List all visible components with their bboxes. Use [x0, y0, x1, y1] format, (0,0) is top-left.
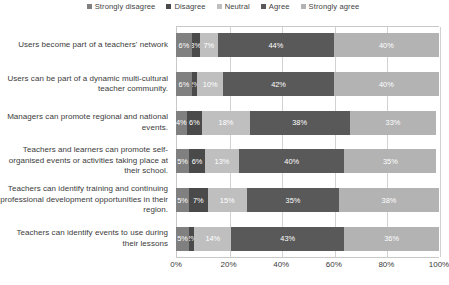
bar-segment-label: 36% — [384, 234, 399, 243]
bar-segment-label: 10% — [203, 80, 218, 89]
bar-segment-label: 4% — [176, 118, 187, 127]
legend-item-label: Strongly agree — [309, 2, 360, 11]
bar-segment-label: 43% — [280, 234, 295, 243]
bar-segment-label: 14% — [205, 234, 220, 243]
legend-item-4[interactable]: Strongly agree — [301, 2, 360, 11]
bar-segment: 7% — [189, 188, 207, 212]
bar-segment-label: 18% — [219, 118, 234, 127]
legend-swatch-icon — [301, 4, 306, 9]
category-label: Teachers can identify events to use duri… — [0, 228, 168, 249]
bar-segment-label: 38% — [292, 118, 307, 127]
bar-segment-label: 33% — [386, 118, 401, 127]
bar-segment-label: 38% — [382, 196, 397, 205]
bar-segment: 6% — [189, 149, 205, 173]
bar-row: 4%6%18%38%33% — [176, 111, 439, 135]
bar-segment: 40% — [239, 149, 344, 173]
bar-segment-label: 5% — [177, 234, 188, 243]
bar-segment: 6% — [176, 33, 192, 57]
bar-segment: 38% — [250, 111, 350, 135]
bar-segment: 36% — [344, 227, 439, 251]
bar-segment: 3% — [192, 33, 200, 57]
bar-segment-label: 35% — [286, 196, 301, 205]
category-label: Teachers can identify training and conti… — [0, 184, 168, 216]
x-axis-tick-3: 60% — [326, 260, 342, 269]
bar-segment-label: 40% — [284, 157, 299, 166]
category-label: Users become part of a teachers' network — [0, 40, 168, 51]
x-axis-tick-4: 80% — [378, 260, 394, 269]
legend-item-0[interactable]: Strongly disagree — [87, 2, 156, 11]
bar-segment: 6% — [187, 111, 203, 135]
legend-item-label: Strongly disagree — [95, 2, 156, 11]
bar-segment-label: 42% — [271, 80, 286, 89]
bar-segment: 42% — [223, 72, 333, 96]
bar-segment-label: 6% — [189, 118, 200, 127]
x-axis-tick-5: 100% — [429, 260, 449, 269]
bar-row: 5%6%13%40%35% — [176, 149, 439, 173]
bar-segment: 18% — [202, 111, 249, 135]
bar-segment: 6% — [176, 72, 192, 96]
bar-segment-label: 3% — [192, 41, 200, 50]
bar-segment: 44% — [218, 33, 334, 57]
bar-segment-label: 7% — [193, 196, 204, 205]
bar-segment-label: 6% — [192, 157, 203, 166]
legend-item-2[interactable]: Neutral — [217, 2, 250, 11]
legend-item-1[interactable]: Disagree — [166, 2, 205, 11]
bar-segment-label: 40% — [379, 80, 394, 89]
bar-segment: 4% — [176, 111, 187, 135]
chart-legend: Strongly disagreeDisagreeNeutralAgreeStr… — [0, 2, 446, 11]
x-axis-tick-2: 40% — [273, 260, 289, 269]
bar-segment: 5% — [176, 227, 189, 251]
bar-segment-label: 40% — [379, 41, 394, 50]
bar-segment: 7% — [200, 33, 218, 57]
category-label: Managers can promote regional and nation… — [0, 112, 168, 133]
bar-row: 5%7%15%35%38% — [176, 188, 439, 212]
bar-row: 6%3%7%44%40% — [176, 33, 439, 57]
bar-segment-label: 13% — [215, 157, 230, 166]
bar-segment-label: 6% — [179, 80, 190, 89]
bar-segment: 40% — [334, 33, 439, 57]
gridline — [440, 27, 441, 257]
x-axis-tick-1: 20% — [221, 260, 237, 269]
bar-row: 5%2%14%43%36% — [176, 227, 439, 251]
bar-segment-label: 15% — [220, 196, 235, 205]
bar-segment: 35% — [344, 149, 436, 173]
x-axis-tick-0: 0% — [170, 260, 182, 269]
bar-segment-label: 5% — [177, 196, 188, 205]
bar-segment: 38% — [339, 188, 439, 212]
legend-item-label: Agree — [269, 2, 290, 11]
bar-segment-label: 7% — [204, 41, 215, 50]
legend-item-label: Disagree — [174, 2, 205, 11]
bar-segment: 5% — [176, 149, 189, 173]
bar-segment: 15% — [208, 188, 247, 212]
bar-segment-label: 5% — [177, 157, 188, 166]
bar-segment: 43% — [231, 227, 344, 251]
bar-row: 6%2%10%42%40% — [176, 72, 439, 96]
bar-segment: 14% — [194, 227, 231, 251]
category-label: Teachers and learners can promote self-o… — [0, 145, 168, 177]
bar-rows: 6%3%7%44%40%6%2%10%42%40%4%6%18%38%33%5%… — [176, 26, 439, 258]
bar-segment: 5% — [176, 188, 189, 212]
x-axis-tick-labels: 0%20%40%60%80%100% — [176, 260, 439, 274]
bar-segment-label: 35% — [383, 157, 398, 166]
bar-segment: 10% — [197, 72, 223, 96]
bar-segment: 33% — [350, 111, 437, 135]
category-axis-labels: Users become part of a teachers' network… — [0, 26, 172, 258]
legend-item-label: Neutral — [225, 2, 250, 11]
legend-item-3[interactable]: Agree — [261, 2, 290, 11]
bar-segment: 40% — [334, 72, 439, 96]
legend-swatch-icon — [217, 4, 222, 9]
bar-segment-label: 44% — [269, 41, 284, 50]
bar-segment-label: 6% — [179, 41, 190, 50]
bar-segment: 13% — [205, 149, 239, 173]
bar-segment: 35% — [247, 188, 339, 212]
legend-swatch-icon — [261, 4, 266, 9]
legend-swatch-icon — [166, 4, 171, 9]
category-label: Users can be part of a dynamic multi-cul… — [0, 74, 168, 95]
legend-swatch-icon — [87, 4, 92, 9]
